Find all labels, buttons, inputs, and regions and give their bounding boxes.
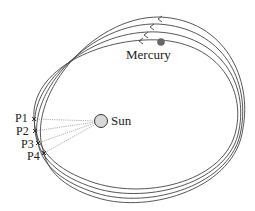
mercury-icon [157, 38, 165, 46]
orbit-diagram: Sun Mercury P1 P2 P3 P4 [0, 0, 255, 211]
mercury-label: Mercury [126, 47, 171, 62]
arrow-icon [139, 38, 143, 44]
label-p1: P1 [15, 111, 28, 125]
sun-label: Sun [111, 113, 132, 128]
radius-line-p4 [44, 124, 96, 153]
label-p2: P2 [16, 124, 29, 138]
sun-icon [95, 115, 108, 128]
label-p4: P4 [27, 149, 40, 163]
orbits [34, 17, 245, 203]
radius-line-p1 [34, 119, 95, 121]
arrow-icon [144, 32, 148, 38]
arrow-icon [150, 24, 154, 30]
radius-lines [34, 119, 96, 153]
orbit-1 [34, 40, 238, 189]
